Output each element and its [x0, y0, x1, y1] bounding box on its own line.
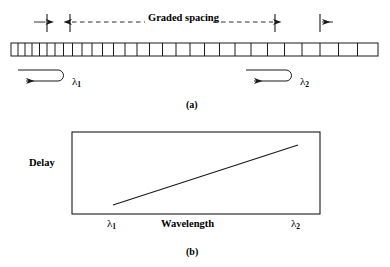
graded-spacing-label: Graded spacing — [148, 13, 219, 24]
panel-a-caption: (a) — [186, 100, 198, 110]
wavelength-axis-label: Wavelength — [161, 219, 214, 230]
lambda-2-hairpin-path — [246, 70, 292, 81]
lambda-1-tick-label: λ1 — [107, 218, 116, 231]
plot-box — [72, 132, 320, 214]
grating-ticks — [18, 43, 358, 56]
grating-group — [11, 43, 378, 56]
lambda-1-subscript: 1 — [77, 80, 81, 89]
lambda-1-tick-subscript: 1 — [112, 222, 116, 231]
delay-plot-group — [72, 132, 320, 214]
lambda-1-label-panel-a: λ1 — [72, 76, 81, 89]
lambda-2-subscript: 2 — [305, 80, 309, 89]
delay-vs-wavelength-line — [113, 145, 298, 205]
lambda-2-tick-label: λ2 — [291, 218, 300, 231]
lambda-2-label-panel-a: λ2 — [300, 76, 309, 89]
delay-axis-label: Delay — [29, 158, 55, 169]
lambda-1-hairpin-path — [18, 70, 64, 81]
panel-b-caption: (b) — [186, 247, 198, 257]
chirped-grating-figure: Graded spacing λ1 λ2 (a) Delay Wavelengt… — [0, 0, 390, 267]
grating-outline — [11, 43, 378, 56]
reflected-ray-group — [18, 70, 292, 81]
lambda-2-tick-subscript: 2 — [296, 222, 300, 231]
